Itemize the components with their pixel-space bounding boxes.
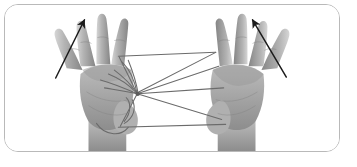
hands-string-figure-photo (5, 5, 339, 151)
string-knot (136, 92, 140, 96)
figure-frame (4, 4, 340, 152)
